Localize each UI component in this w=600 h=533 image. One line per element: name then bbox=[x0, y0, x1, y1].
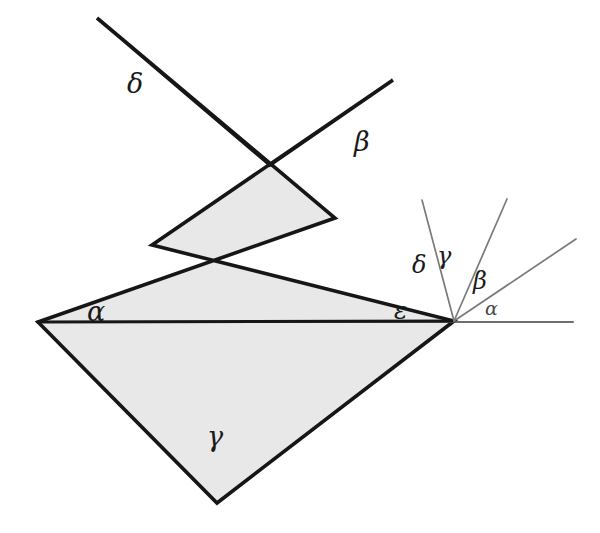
star-label-alpha: α bbox=[87, 298, 105, 325]
star-label-beta: β bbox=[354, 128, 370, 155]
fan-label-beta: β bbox=[473, 269, 487, 293]
pentagram-canvas bbox=[0, 0, 600, 533]
pentagram-figure: δ β α ε γ δ γ β α bbox=[0, 0, 600, 533]
star-label-delta: δ bbox=[127, 70, 143, 97]
star-label-gamma: γ bbox=[207, 423, 223, 450]
fan-label-delta: δ bbox=[412, 253, 426, 277]
star-label-epsilon: ε bbox=[394, 298, 407, 323]
pentagram-star-shape bbox=[38, 18, 454, 503]
fan-label-gamma: γ bbox=[437, 244, 451, 268]
fan-label-alpha: α bbox=[485, 299, 498, 318]
